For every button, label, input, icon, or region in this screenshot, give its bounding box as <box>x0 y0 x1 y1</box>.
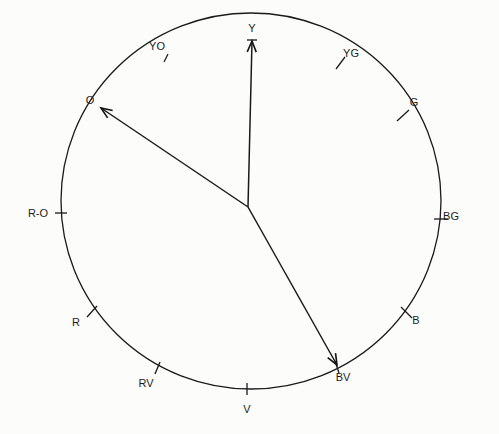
vector-to-Y-shaft <box>248 41 252 207</box>
arrowhead-icon <box>328 353 337 365</box>
vector-to-O <box>101 108 248 207</box>
label-o: O <box>86 94 95 106</box>
vector-to-BV <box>248 207 337 365</box>
hue-ticks <box>55 40 448 395</box>
tick-yo <box>164 54 168 62</box>
label-bv: BV <box>336 371 351 383</box>
label-v: V <box>243 403 251 415</box>
hue-vectors <box>101 41 337 365</box>
label-b: B <box>412 314 419 326</box>
label-g: G <box>410 96 419 108</box>
label-yo: YO <box>149 40 165 52</box>
hue-circle-diagram: YYGGBGBBVVRVRR-OOYO <box>0 0 499 434</box>
tick-r <box>87 306 97 317</box>
label-bg: BG <box>443 210 459 222</box>
label-rv: RV <box>138 377 154 389</box>
vector-to-O-shaft <box>101 108 248 207</box>
hue-labels: YYGGBGBBVVRVRR-OOYO <box>28 22 459 415</box>
hue-circle-canvas: YYGGBGBBVVRVRR-OOYO <box>0 0 499 434</box>
vector-to-BV-shaft <box>248 207 337 365</box>
arrowhead-icon <box>101 108 113 118</box>
label-r: R <box>72 316 80 328</box>
vector-to-Y <box>247 41 256 207</box>
label-yg: YG <box>343 47 359 59</box>
tick-g <box>397 110 409 121</box>
label-y: Y <box>248 22 256 34</box>
label-r-o: R-O <box>28 207 49 219</box>
